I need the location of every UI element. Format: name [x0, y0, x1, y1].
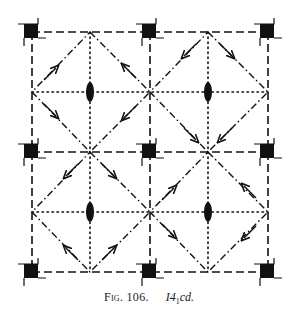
space-group-suffix: cd.: [180, 290, 194, 304]
figure-caption: Fig. 106. I41cd.: [0, 290, 298, 306]
space-group-diagram: [0, 0, 298, 290]
space-group-symbol: I41cd.: [166, 290, 194, 304]
fourfold-axis-icon: [254, 18, 282, 46]
twofold-axis-icon: [204, 82, 212, 102]
twofold-axis-icon: [86, 82, 94, 102]
twofold-axis-icon: [86, 202, 94, 222]
space-group-prefix: I4: [166, 290, 176, 304]
fourfold-axis-icon: [18, 18, 46, 46]
figure-number: Fig. 106.: [104, 290, 149, 304]
twofold-axis-icon: [204, 202, 212, 222]
